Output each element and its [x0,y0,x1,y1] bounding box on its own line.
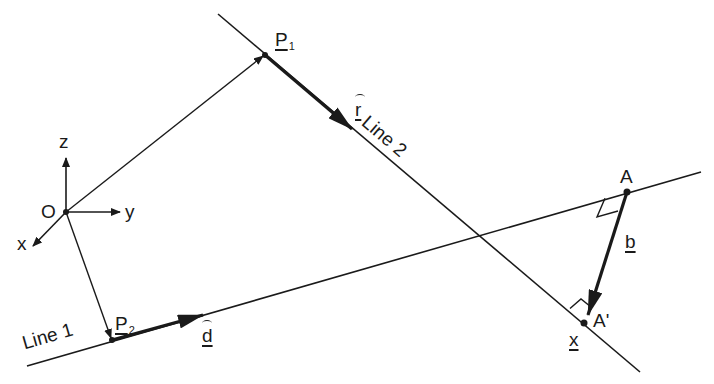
vector-b-letter: b [625,231,636,252]
direction-r-label: r [355,100,361,119]
point-p2-letter: P [115,313,128,334]
point-a-label: A [620,167,633,186]
vector-x-label: x [569,330,579,349]
point-a-prime-label: A' [593,311,609,330]
point-a-prime [581,320,588,327]
point-p1 [262,52,268,58]
point-a [624,189,631,196]
origin-point [63,209,69,215]
point-p2-label: P2 [115,314,135,333]
point-p2 [109,337,115,343]
z-axis-label: z [59,132,69,151]
diagram-canvas: O z y x P1 r Line 2 Line 1 P2 d A b A' x [0,0,714,384]
right-angle-marker-a-prime [570,299,591,309]
vector-b [588,192,627,315]
point-p1-label: P1 [275,30,295,49]
x-axis-label: x [17,234,27,253]
direction-r-letter: r [355,100,361,119]
y-axis-label: y [125,202,135,221]
point-p1-letter: P [275,29,288,50]
point-p2-subscript: 2 [129,324,135,336]
vector-b-label: b [625,232,636,251]
direction-d-letter: d [202,326,213,345]
position-vector-p2 [66,212,111,338]
origin-label: O [41,202,56,221]
direction-d-label: d [202,326,213,345]
position-vector-p1 [66,56,263,212]
vector-x-letter: x [569,329,579,350]
direction-vector-r [265,55,352,129]
point-p1-subscript: 1 [289,40,295,52]
